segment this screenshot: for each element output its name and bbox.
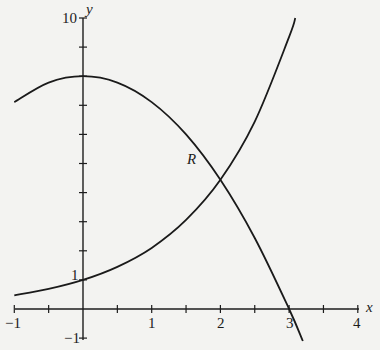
x-tick-label-1: 1 — [148, 316, 156, 331]
x-axis-label: x — [366, 300, 373, 315]
figure: y x 10 1 −1 −1 1 2 3 4 R — [0, 0, 380, 350]
x-tick-label-2: 2 — [217, 316, 225, 331]
x-tick-label-neg1: −1 — [5, 316, 21, 331]
plot-area — [0, 0, 380, 350]
region-label-r: R — [187, 152, 196, 167]
increasing-curve — [14, 18, 295, 295]
y-tick-label-neg1: −1 — [64, 331, 80, 346]
y-tick-label-10: 10 — [62, 11, 77, 26]
y-axis-label: y — [86, 2, 93, 17]
x-tick-label-4: 4 — [353, 316, 361, 331]
x-tick-label-3: 3 — [286, 316, 294, 331]
y-tick-label-1: 1 — [71, 268, 79, 283]
decreasing-curve — [14, 76, 303, 341]
